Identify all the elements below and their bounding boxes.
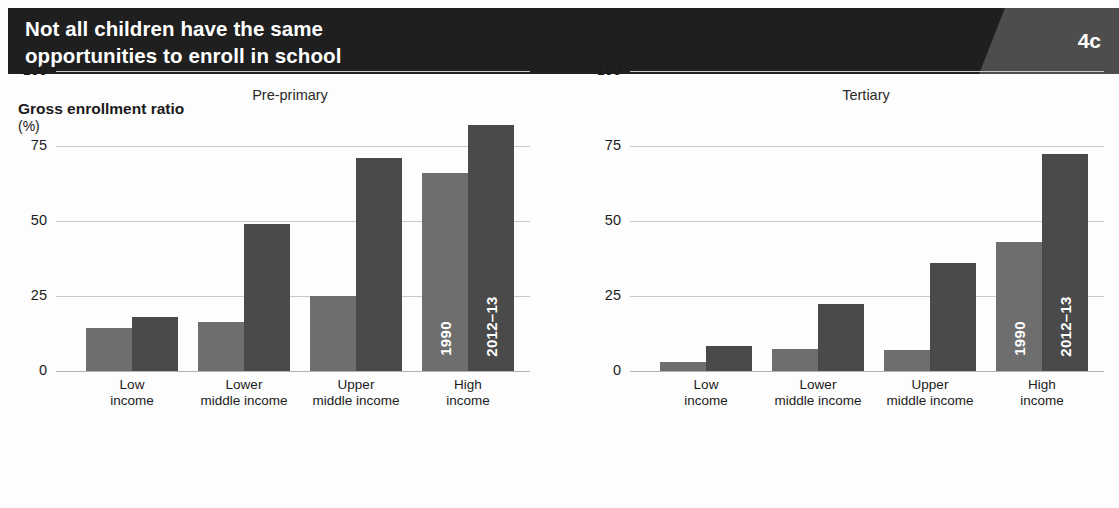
bar-group-high-income: 19902012–13 [422, 71, 514, 371]
x-axis-label-line-2: middle income [312, 393, 399, 409]
bar-2012-13-upper-middle-income [356, 158, 402, 371]
bar-group-upper-middle-income [310, 71, 402, 371]
bar-1990-upper-middle-income [310, 296, 356, 371]
in-bar-series-label-1990: 1990 [1011, 321, 1028, 356]
header-title-line-1: Not all children have the same [25, 15, 825, 42]
x-axis-label-lower-middle-income: Lowermiddle income [774, 377, 861, 408]
x-axis-label-low-income: Lowincome [110, 377, 154, 408]
bar-1990-high-income: 1990 [422, 173, 468, 371]
header-banner: Not all children have the same opportuni… [8, 8, 1119, 74]
y-axis-tick-25: 25 [31, 287, 47, 303]
x-axis-label-line-1: Upper [312, 377, 399, 393]
source-note-clipped [8, 500, 908, 508]
in-bar-series-label-1990: 1990 [437, 321, 454, 356]
y-axis-tick-75: 75 [31, 137, 47, 153]
y-axis-tick-0: 0 [39, 362, 47, 378]
gridline-0 [630, 371, 1104, 372]
bar-group-upper-middle-income [884, 71, 976, 371]
bar-2012-13-low-income [132, 317, 178, 371]
bar-group-high-income: 19902012–13 [996, 71, 1088, 371]
x-axis-label-line-2: middle income [886, 393, 973, 409]
header-title: Not all children have the same opportuni… [25, 15, 825, 69]
x-axis-label-upper-middle-income: Uppermiddle income [312, 377, 399, 408]
x-axis-label-upper-middle-income: Uppermiddle income [886, 377, 973, 408]
bar-2012-13-high-income: 2012–13 [1042, 154, 1088, 372]
x-axis-label-lower-middle-income: Lowermiddle income [200, 377, 287, 408]
x-axis-label-high-income: Highincome [1020, 377, 1064, 408]
x-axis-label-line-2: income [684, 393, 728, 409]
in-bar-series-label-2012-13: 2012–13 [1057, 296, 1074, 357]
bar-group-lower-middle-income [198, 71, 290, 371]
bar-group-low-income [86, 71, 178, 371]
x-axis-label-line-2: middle income [774, 393, 861, 409]
bar-2012-13-upper-middle-income [930, 263, 976, 371]
x-axis-label-line-1: Upper [886, 377, 973, 393]
bar-2012-13-high-income: 2012–13 [468, 125, 514, 371]
bar-1990-lower-middle-income [198, 322, 244, 372]
bar-1990-low-income [86, 328, 132, 372]
header-title-line-2: opportunities to enroll in school [25, 42, 825, 69]
x-axis-label-low-income: Lowincome [684, 377, 728, 408]
x-axis-label-line-2: middle income [200, 393, 287, 409]
bar-2012-13-low-income [706, 346, 752, 372]
x-axis-label-line-1: Lower [200, 377, 287, 393]
bar-group-low-income [660, 71, 752, 371]
x-axis-label-high-income: Highincome [446, 377, 490, 408]
bar-1990-lower-middle-income [772, 349, 818, 372]
bar-1990-low-income [660, 362, 706, 371]
x-axis-label-line-1: High [1020, 377, 1064, 393]
figure-number-badge: 4c [979, 8, 1119, 74]
y-axis-tick-25: 25 [605, 287, 621, 303]
bar-1990-upper-middle-income [884, 350, 930, 371]
y-axis-tick-75: 75 [605, 137, 621, 153]
x-axis-label-line-1: Low [110, 377, 154, 393]
in-bar-series-label-2012-13: 2012–13 [483, 296, 500, 357]
gridline-0 [56, 371, 530, 372]
y-axis-tick-50: 50 [31, 212, 47, 228]
y-axis-tick-0: 0 [613, 362, 621, 378]
y-axis-tick-100: 100 [597, 62, 621, 78]
y-axis-tick-50: 50 [605, 212, 621, 228]
bar-2012-13-lower-middle-income [818, 304, 864, 372]
x-axis-label-line-1: High [446, 377, 490, 393]
bar-2012-13-lower-middle-income [244, 224, 290, 371]
x-axis-label-line-2: income [446, 393, 490, 409]
y-axis-tick-100: 100 [23, 62, 47, 78]
x-axis-label-line-1: Lower [774, 377, 861, 393]
bar-group-lower-middle-income [772, 71, 864, 371]
x-axis-label-line-1: Low [684, 377, 728, 393]
plot-area-tertiary: 0255075100LowincomeLowermiddle incomeUpp… [630, 71, 1104, 371]
x-axis-label-line-2: income [1020, 393, 1064, 409]
x-axis-label-line-2: income [110, 393, 154, 409]
plot-area-pre-primary: 0255075100LowincomeLowermiddle incomeUpp… [56, 71, 530, 371]
bar-1990-high-income: 1990 [996, 242, 1042, 371]
